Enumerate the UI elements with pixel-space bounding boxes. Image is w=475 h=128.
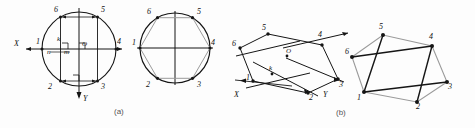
label-vertex-2-left: 2 bbox=[48, 83, 52, 91]
vertex-dot-5 bbox=[191, 16, 194, 19]
label-node-1-hexagon: 1 bbox=[357, 94, 361, 102]
figure-svg bbox=[0, 0, 475, 128]
figure-canvas: 1 2 3 4 5 6 X Y O k n m 1 2 3 4 5 6 1 2 … bbox=[0, 0, 475, 128]
label-origin-oblique: O bbox=[286, 48, 291, 55]
node-dot-origin bbox=[286, 55, 289, 58]
node-dot-5 bbox=[266, 32, 269, 35]
label-node-1-oblique: 1 bbox=[246, 74, 250, 82]
node-dot-k bbox=[271, 73, 274, 76]
caption-a: (a) bbox=[114, 107, 124, 116]
vertex-dot-4 bbox=[115, 48, 118, 51]
vertex-dot-6 bbox=[59, 16, 62, 19]
label-node-5-oblique: 5 bbox=[262, 24, 266, 32]
label-x-axis-left: X bbox=[14, 40, 19, 48]
label-vertex-6-right: 6 bbox=[147, 8, 151, 16]
node-dot-6 bbox=[350, 55, 354, 59]
label-y-axis-oblique: Y bbox=[323, 91, 327, 99]
label-vertex-3-right: 3 bbox=[197, 81, 201, 89]
axis-line-to-4 bbox=[283, 33, 348, 48]
y-axis-arrow-down-icon bbox=[77, 92, 82, 99]
right-angle-mark-bottom bbox=[73, 75, 79, 81]
panel-oblique-projection-a bbox=[235, 32, 348, 96]
vertex-dot-2 bbox=[156, 77, 159, 80]
diagonal-6-4 bbox=[352, 46, 432, 57]
label-k-oblique: k bbox=[269, 65, 272, 72]
label-y-axis-left: Y bbox=[83, 95, 87, 103]
label-vertex-2-right: 2 bbox=[146, 81, 150, 89]
node-dot-1 bbox=[251, 79, 254, 82]
node-dot-6 bbox=[238, 46, 241, 49]
label-node-2-oblique: 2 bbox=[309, 94, 313, 102]
label-x-axis-oblique: X bbox=[234, 91, 239, 99]
panel-oblique-hexagon-b bbox=[350, 33, 449, 104]
caption-b: (b) bbox=[336, 108, 346, 117]
label-k-left: k bbox=[57, 36, 60, 43]
vertex-dot-3 bbox=[191, 77, 194, 80]
label-node-5-hexagon: 5 bbox=[379, 23, 383, 31]
label-node-3-oblique: 3 bbox=[339, 81, 343, 89]
label-vertex-4-right: 4 bbox=[211, 39, 215, 47]
node-dot-1 bbox=[362, 90, 366, 94]
label-node-3-hexagon: 3 bbox=[448, 83, 452, 91]
x-axis-arrow-left-icon bbox=[26, 47, 31, 51]
vertex-dot-2 bbox=[59, 80, 62, 83]
label-vertex-3-left: 3 bbox=[101, 83, 105, 91]
vertex-dot-3 bbox=[96, 80, 99, 83]
label-vertex-4-left: 4 bbox=[117, 38, 121, 46]
label-node-2-hexagon: 2 bbox=[416, 103, 420, 111]
node-dot-4 bbox=[430, 44, 434, 48]
vertex-dot-1 bbox=[138, 46, 141, 49]
rail-5-4 bbox=[268, 34, 322, 45]
label-vertex-6-left: 6 bbox=[54, 6, 58, 14]
label-vertex-1-right: 1 bbox=[132, 39, 136, 47]
vertex-dot-5 bbox=[96, 16, 99, 19]
label-node-4-oblique: 4 bbox=[318, 31, 322, 39]
x-axis-arrow-right-icon bbox=[117, 47, 122, 51]
node-dot-4 bbox=[320, 43, 323, 46]
label-node-6-oblique: 6 bbox=[232, 40, 236, 48]
label-node-4-hexagon: 4 bbox=[429, 33, 433, 41]
vertex-dot-1 bbox=[41, 48, 44, 51]
label-vertex-1-left: 1 bbox=[36, 38, 40, 46]
label-m-left: m bbox=[64, 49, 69, 56]
vertex-dot-6 bbox=[156, 16, 159, 19]
label-vertex-5-right: 5 bbox=[197, 8, 201, 16]
label-node-6-hexagon: 6 bbox=[345, 48, 349, 56]
node-dot-5 bbox=[381, 33, 385, 37]
diagonal-5-1 bbox=[364, 35, 383, 92]
label-vertex-5-left: 5 bbox=[101, 6, 105, 14]
label-origin-left: O bbox=[82, 41, 87, 48]
panel-circle-hexagon-right bbox=[137, 11, 213, 85]
panel-circle-construction-left bbox=[26, 8, 122, 99]
rail-6-5 bbox=[240, 34, 268, 48]
label-n-left: n bbox=[47, 49, 51, 56]
